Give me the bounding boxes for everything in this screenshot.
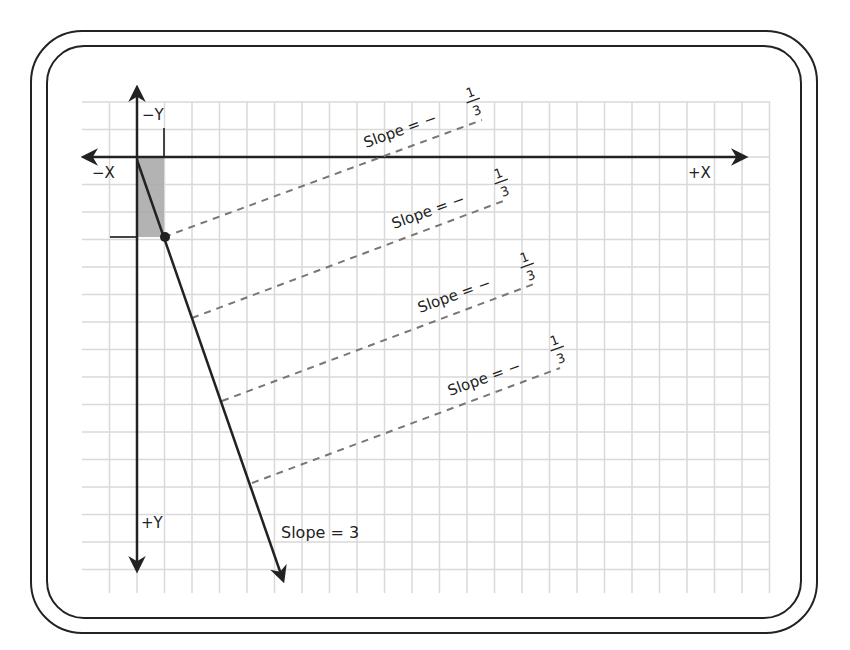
svg-text:3: 3: [554, 350, 567, 367]
neg-y-label: −Y: [142, 106, 165, 124]
diagram-canvas: −X +X −Y +Y Slope = 3 Slope = − 1 3 Slop…: [0, 0, 850, 650]
svg-text:Slope = −: Slope = −: [445, 357, 523, 400]
diagram-stage: −X +X −Y +Y Slope = 3 Slope = − 1 3 Slop…: [0, 0, 850, 650]
pos-x-label: +X: [688, 164, 711, 182]
perp-line-1: [164, 120, 482, 237]
svg-text:3: 3: [524, 267, 537, 284]
svg-text:1: 1: [464, 84, 477, 101]
svg-text:Slope = −: Slope = −: [415, 274, 493, 317]
intersection-point: [160, 232, 170, 242]
svg-text:3: 3: [498, 183, 511, 200]
svg-text:1: 1: [518, 249, 531, 266]
pos-y-label: +Y: [141, 514, 164, 532]
svg-text:Slope = −: Slope = −: [361, 109, 439, 152]
perp-line-4: [252, 368, 560, 483]
grid: [82, 102, 770, 593]
neg-x-label: −X: [92, 164, 115, 182]
perp-label-4: Slope = − 1 3: [442, 331, 570, 405]
perp-label-3: Slope = − 1 3: [412, 248, 540, 322]
slope-3-label: Slope = 3: [281, 523, 359, 542]
svg-text:3: 3: [470, 102, 483, 119]
